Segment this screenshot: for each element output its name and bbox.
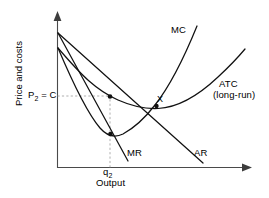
ar-curve (58, 33, 203, 163)
mr-curve-label: MR (127, 148, 142, 159)
price-level-equals-cost: = C (38, 89, 56, 100)
tangency-point-marker (108, 94, 113, 99)
atc-curve-note: (long-run) (213, 90, 255, 101)
price-level-label: P2 = C (28, 90, 57, 102)
y-axis-title: Price and costs (13, 31, 24, 117)
quantity-subscript: 2 (108, 172, 112, 179)
y-axis-arrow-icon (54, 11, 62, 21)
mr-mc-intersection-marker (108, 132, 113, 137)
mc-curve-label: MC (171, 25, 186, 36)
mr-curve (58, 33, 128, 161)
economics-diagram: Price and costs Output MC ATC (long-run)… (0, 0, 269, 198)
atc-minimum-point-marker (154, 104, 158, 108)
mc-curve (58, 26, 197, 136)
ar-curve-label: AR (194, 148, 207, 159)
quantity-label: q2 (103, 167, 112, 179)
x-axis-arrow-icon (242, 164, 252, 172)
x-axis-title: Output (96, 178, 125, 189)
equilibrium-point-label: X (157, 94, 163, 104)
